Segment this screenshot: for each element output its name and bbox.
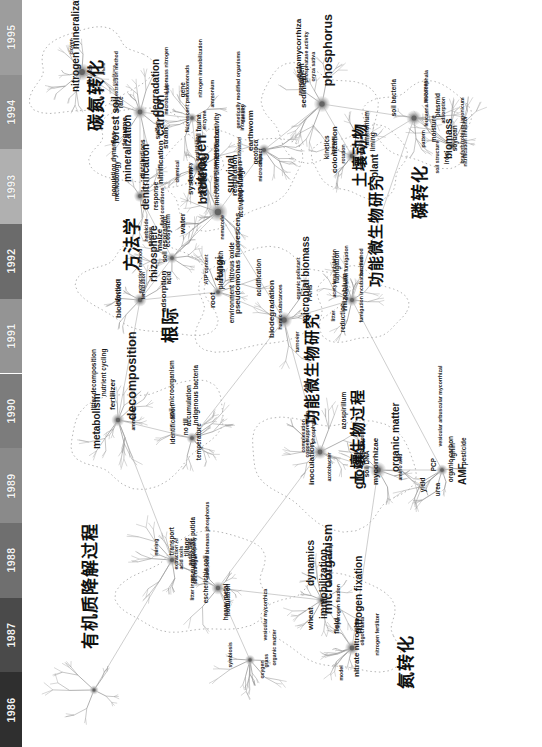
keyword-label[interactable]: oxygen [260,660,265,678]
keyword-label[interactable]: enzyme [202,110,207,129]
keyword-label[interactable]: transport processes [213,143,218,193]
keyword-label[interactable]: infection [114,280,120,307]
keyword-label[interactable]: root [209,292,217,308]
keyword-label[interactable]: soil fauna [195,114,201,144]
keyword-label[interactable]: ecosystem [165,214,171,247]
keyword-label[interactable]: degradation [151,58,161,115]
keyword-label[interactable]: nitrogen fertilizer [375,613,380,655]
keyword-label[interactable]: oryza sativa [311,51,316,81]
keyword-label[interactable]: metabolism [92,394,102,450]
keyword-label[interactable]: model [339,665,344,680]
keyword-label[interactable]: reduction [340,303,346,332]
keyword-label[interactable]: symbiosis [228,643,233,668]
keyword-label[interactable]: fertilization [141,271,146,299]
keyword-label[interactable]: plant growth [218,251,224,289]
cluster-label-c-root[interactable]: 根际 [156,307,181,343]
keyword-label[interactable]: fertilizer [109,379,117,410]
keyword-label[interactable]: nitrification [157,141,165,185]
cluster-label-c-sbio[interactable]: 土壤生物过程 [346,389,367,485]
keyword-label[interactable]: hydrogen fixation [336,584,341,628]
cluster-label-c-p[interactable]: 磷转化 [406,165,431,219]
keyword-label[interactable]: clover [69,39,74,54]
cluster-label-c-cn[interactable]: 碳氮转化 [82,59,107,131]
keyword-label[interactable]: nutrient cycling [101,349,107,397]
keyword-label[interactable]: heavy metal [223,583,229,620]
network-node-core [92,688,95,691]
keyword-label[interactable]: PCP [430,458,436,471]
keyword-label[interactable]: enzymes [423,80,428,102]
keyword-label[interactable]: response [153,182,159,210]
keyword-label[interactable]: mineralization [123,114,133,181]
keyword-label[interactable]: microbial biomass phosphorus [206,501,211,578]
keyword-label[interactable]: phosphorus [322,14,335,86]
network-node-core [411,115,416,120]
keyword-label[interactable]: water [179,213,187,234]
keyword-label[interactable]: soil bacteria [391,79,397,116]
keyword-label[interactable]: liming [369,132,375,151]
keyword-label[interactable]: acid soils [179,546,184,570]
keyword-label[interactable]: soil structure [436,141,441,174]
keyword-label[interactable]: direct extraction method [114,51,119,112]
keyword-label[interactable]: organic matter [273,630,278,666]
keyword-label[interactable]: biodegradation [268,280,276,338]
keyword-label[interactable]: pseudomonas fluorescens [234,213,242,314]
keyword-label[interactable]: distributions [140,140,146,179]
keyword-label[interactable]: cultivation [237,136,242,162]
keyword-label[interactable]: vesicular arbuscular mycorrhizal [439,365,444,446]
keyword-label[interactable]: lignin [450,443,456,460]
keyword-label[interactable]: vesicular mycorrhiza [264,589,269,641]
keyword-label[interactable]: bacteria [196,156,209,204]
keyword-label[interactable]: iron [444,152,450,164]
keyword-label[interactable]: chemical [175,160,180,182]
keyword-label[interactable]: indigenous bacteria [192,364,198,424]
keyword-label[interactable]: oligochaeta [360,617,365,646]
keyword-label[interactable]: AMF [458,464,468,486]
keyword-label[interactable]: population dynamics [111,132,117,196]
keyword-label[interactable]: population [236,161,244,202]
keyword-label[interactable]: survival [226,155,236,193]
keyword-label[interactable]: nitrification inhibitor [464,116,469,166]
cluster-label-c-om[interactable]: 有机质降解过程 [76,523,101,649]
keyword-label[interactable]: litter input [190,575,195,600]
keyword-label[interactable]: moisture [430,115,436,142]
keyword-label[interactable]: interaction [240,104,245,131]
keyword-label[interactable]: amino acid [398,453,403,480]
keyword-label[interactable]: decomposition [126,331,139,420]
keyword-label[interactable]: yield [420,478,426,493]
keyword-label[interactable]: dynamics [306,540,316,586]
keyword-label[interactable]: acidification [255,259,261,296]
keyword-label[interactable]: identification [169,404,175,444]
keyword-label[interactable]: temperature [196,423,202,460]
keyword-label[interactable]: acetylene inhibition [332,249,337,297]
keyword-label[interactable]: humic substances [278,285,283,330]
keyword-label[interactable]: microcosm [258,154,263,182]
keyword-label[interactable]: nitrogen immobilization [199,39,204,98]
keyword-label[interactable]: adsorption [441,96,446,123]
keyword-label[interactable]: pesticide [461,438,467,466]
keyword-label[interactable]: mining [154,538,159,555]
cluster-label-c-func[interactable]: 功能微生物研究 [364,175,385,287]
keyword-label[interactable]: rotation [342,144,347,163]
keyword-label[interactable]: pattern [421,130,426,148]
keyword-label[interactable]: nematode [221,215,226,240]
keyword-label[interactable]: ammonium [210,80,215,108]
keyword-label[interactable]: ATP content [204,255,209,285]
keyword-label[interactable]: colonization [331,126,339,173]
keyword-label[interactable]: microbial biomass nitrogen [164,47,169,115]
keyword-label[interactable]: extraction Al [174,538,179,569]
keyword-label[interactable]: azotobacter [327,452,332,481]
keyword-label[interactable]: microorganism [322,524,335,614]
keyword-label[interactable]: fluorescent pseudomonads [185,65,190,133]
keyword-label[interactable]: nutrient [299,64,305,88]
keyword-label[interactable]: litter [331,310,336,321]
keyword-label[interactable]: rhizosphere [149,226,159,283]
keyword-label[interactable]: mycorrhizae [372,438,380,485]
keyword-label[interactable]: soybean [452,125,458,151]
keyword-label[interactable]: microbial biomass [301,236,311,324]
keyword-label[interactable]: wheat [307,607,315,630]
cluster-label-c-n[interactable]: 氮转化 [392,635,417,689]
cluster-label-c-meth[interactable]: 方法学 [118,217,143,271]
keyword-label[interactable]: urea [434,482,440,496]
keyword-label[interactable]: system [187,167,195,195]
cluster-label-c-func2[interactable]: 功能微生物研究 [300,313,321,425]
